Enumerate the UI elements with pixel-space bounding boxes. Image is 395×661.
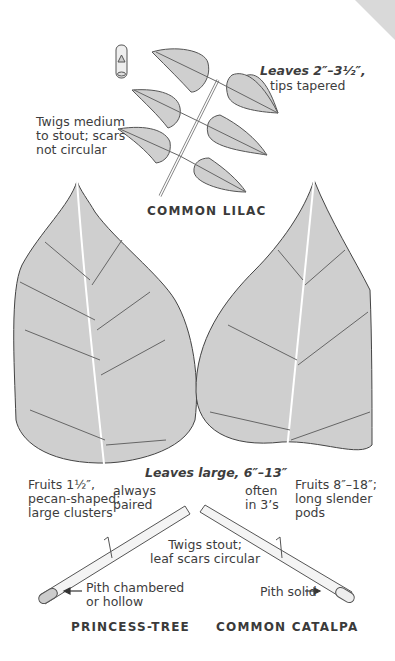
lilac-twigs-label: Twigs medium to stout; scars not circula… — [36, 115, 125, 157]
catalpa-pith-label: Pith solid — [260, 585, 317, 599]
catalpa-title: COMMON CATALPA — [216, 620, 358, 634]
lilac-twig-section-icon — [116, 45, 127, 78]
catalpa-fruits-label: Fruits 8″–18″; long slender pods — [295, 478, 377, 520]
twigs-stout-label: Twigs stout; leaf scars circular — [150, 538, 260, 566]
princess-tree-title: PRINCESS-TREE — [71, 620, 190, 634]
lilac-title: COMMON LILAC — [147, 204, 267, 218]
catalpa-arrangement-label: often in 3’s — [245, 484, 279, 512]
princess-tree-arrangement-label: always paired — [113, 484, 156, 512]
lilac-leaves-size-label: Leaves 2″–3½″, — [260, 64, 366, 78]
large-leaves-size-label: Leaves large, 6″–13″ — [145, 466, 287, 480]
page-corner-shadow — [355, 0, 395, 40]
lilac-leaves-tip-label: tips tapered — [270, 79, 345, 93]
princess-tree-pith-label: Pith chambered or hollow — [86, 581, 184, 609]
princess-tree-fruits-label: Fruits 1½″, pecan-shaped; large clusters — [28, 478, 120, 520]
